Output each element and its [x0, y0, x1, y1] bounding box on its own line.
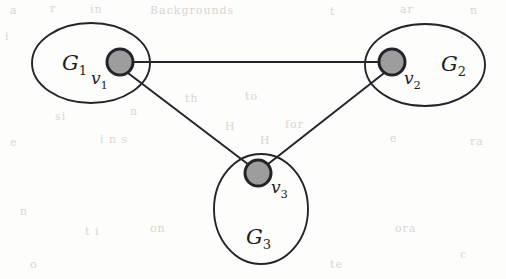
vertex-label-v3-main: v: [271, 177, 281, 197]
vertex-node-v2: [379, 49, 405, 75]
vertex-label-v2-main: v: [404, 68, 414, 88]
vertex-node-v3: [245, 160, 271, 186]
figure-canvas: BackgroundsarintarnirthtonHforsiei n sHe…: [0, 0, 506, 279]
vertex-label-v3-subscript: 3: [281, 187, 288, 201]
group-label-g1-subscript: 1: [79, 63, 87, 78]
group-label-g3-main: G: [246, 225, 263, 249]
edge-layer: [120, 62, 392, 168]
graph-diagram: G1G2G3 v1v2v3: [0, 0, 506, 279]
group-label-g2-main: G: [441, 52, 458, 76]
group-label-g1-main: G: [62, 51, 79, 75]
edge-v2-v3: [263, 70, 388, 168]
vertex-label-v1-main: v: [91, 68, 101, 88]
vertex-label-v2-subscript: 2: [414, 78, 421, 92]
group-label-g2-subscript: 2: [458, 64, 466, 79]
vertex-label-v1-subscript: 1: [101, 78, 108, 92]
group-label-g3-subscript: 3: [263, 237, 271, 252]
vertex-node-v1: [107, 49, 133, 75]
edge-v1-v3: [124, 70, 253, 168]
vertex-layer: [107, 49, 405, 186]
